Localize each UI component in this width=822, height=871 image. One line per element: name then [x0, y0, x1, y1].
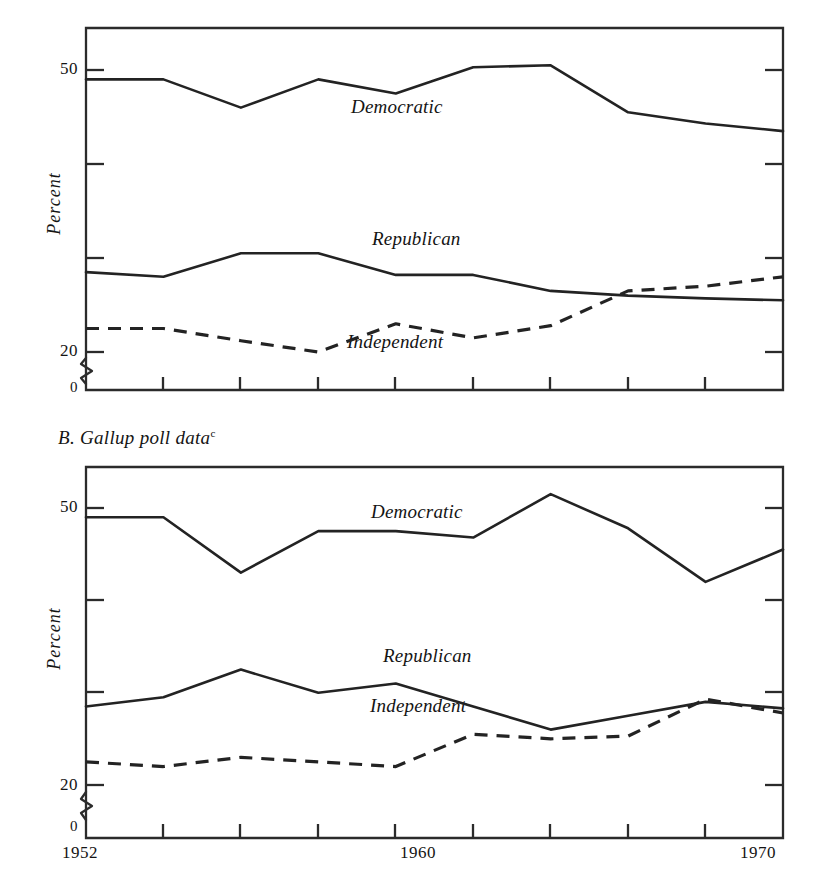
y-ticks-a [86, 70, 783, 352]
x-ticks-a [163, 377, 705, 390]
plot-area-a [0, 0, 822, 440]
y-ticks-b [86, 508, 783, 785]
series-line-b-independent [86, 699, 783, 766]
axis-frame-b [86, 467, 783, 838]
series-line-a-democratic [86, 65, 783, 131]
panel-caption-b-note: c [210, 427, 215, 439]
axis-frame-a [86, 28, 783, 390]
series-line-a-independent [86, 277, 783, 352]
series-line-b-democratic [86, 494, 783, 582]
series-line-a-republican [86, 253, 783, 300]
plot-area-b [0, 440, 822, 871]
x-ticks-b [163, 824, 705, 838]
series-line-b-republican [86, 670, 783, 730]
chart-panel-b: B. Gallup poll datac Percent 50 20 0 195… [0, 440, 822, 871]
chart-panel-a: Percent 50 20 0 Democratic Republican In… [0, 0, 822, 440]
